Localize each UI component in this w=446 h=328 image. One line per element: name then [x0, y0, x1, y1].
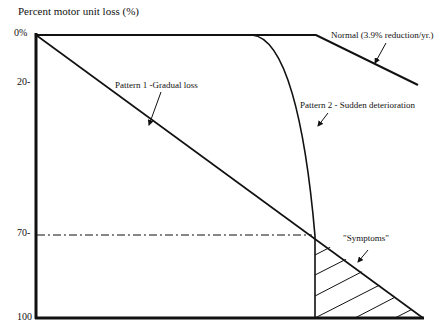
symptoms-annotation: "Symptoms"	[343, 233, 389, 243]
pattern2-annotation: Pattern 2 - Sudden deterioration	[300, 100, 415, 110]
pattern1-series-line	[36, 35, 423, 318]
chart-plot	[0, 0, 446, 328]
pattern2-series-line	[252, 35, 315, 318]
normal-annotation: Normal (3.9% reduction/yr.)	[331, 30, 433, 40]
symptoms-hatch	[315, 232, 440, 318]
pattern1-annotation: Pattern 1 -Gradual loss	[115, 80, 198, 90]
